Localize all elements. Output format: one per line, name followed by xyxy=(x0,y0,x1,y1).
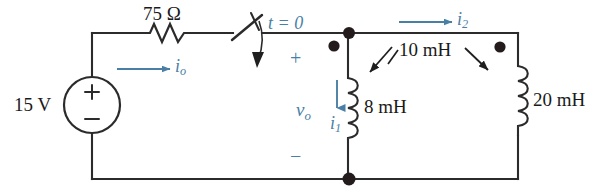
switch-open-arrowhead xyxy=(252,52,264,68)
inductor-20mh-label: 20 mH xyxy=(533,90,585,109)
vo-plus-sign: + xyxy=(290,48,301,68)
coupling-dot-right xyxy=(494,41,505,52)
voltage-source-symbol xyxy=(64,77,120,133)
node-dot-bottom xyxy=(343,173,356,186)
mutual-tick-left xyxy=(388,50,398,64)
inductor-8mh-symbol xyxy=(348,78,358,140)
switch-time-label: t = 0 xyxy=(268,14,303,32)
resistor-value-label: 75 Ω xyxy=(143,4,181,23)
mutual-arrow-right xyxy=(465,48,488,70)
switch-tick xyxy=(251,13,259,30)
mutual-arrow-left xyxy=(370,47,392,72)
inductor-20mh-symbol xyxy=(518,66,528,136)
current-i1-label: i1 xyxy=(330,114,341,135)
inductor-8mh-label: 8 mH xyxy=(364,97,407,116)
coupling-dot-left xyxy=(328,40,339,51)
voltage-vo-subscript: o xyxy=(304,108,310,123)
node-dot-top xyxy=(343,27,355,39)
resistor-symbol xyxy=(145,24,191,42)
vo-minus-sign: − xyxy=(290,146,301,166)
current-i2-subscript: 2 xyxy=(462,17,468,31)
voltage-vo-label: vo xyxy=(296,100,311,123)
source-value-label: 15 V xyxy=(14,95,51,114)
current-io-label: io xyxy=(175,57,186,78)
current-i1-subscript: 1 xyxy=(335,121,341,135)
current-i2-label: i2 xyxy=(457,10,468,31)
current-io-subscript: o xyxy=(180,64,186,78)
switch-symbol xyxy=(232,13,264,68)
mutual-inductance-label: 10 mH xyxy=(399,40,451,59)
circuit-diagram: 75 Ω 15 V t = 0 8 mH 20 mH 10 mH io i2 i… xyxy=(0,0,606,195)
